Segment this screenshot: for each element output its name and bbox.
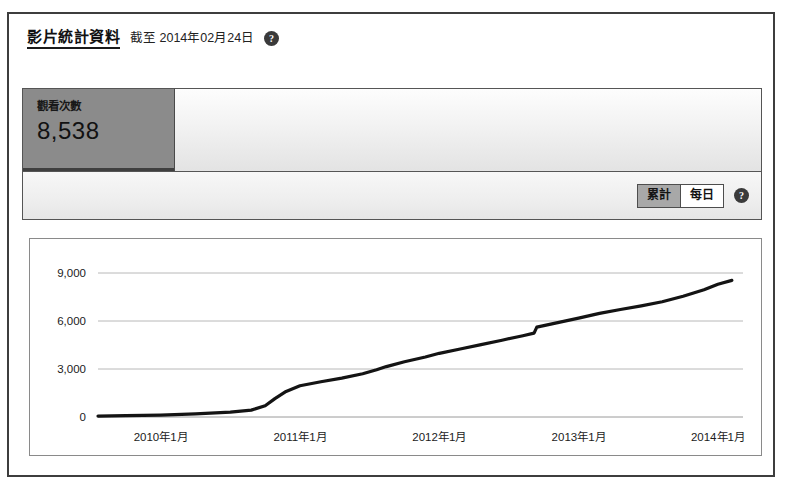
ytick-label-0: 0	[80, 411, 86, 423]
header: 影片統計資料 截至 2014年02月24日 ?	[27, 28, 279, 49]
xtick-label-2: 2012年1月	[412, 430, 466, 443]
help-icon[interactable]: ?	[264, 31, 279, 46]
view-count-card[interactable]: 觀看次數 8,538	[23, 89, 175, 171]
toggle-daily[interactable]: 每日	[680, 185, 723, 207]
view-count-label: 觀看次數	[37, 99, 174, 113]
as-of-date-label: 截至 2014年02月24日	[130, 29, 254, 49]
xtick-label-4: 2014年1月	[691, 430, 745, 443]
view-count-value: 8,538	[37, 116, 174, 146]
summary-chart-area	[175, 89, 761, 171]
summary-band: 觀看次數 8,538	[22, 88, 762, 172]
page-title: 影片統計資料	[27, 28, 120, 49]
xtick-label-0: 2010年1月	[134, 430, 188, 443]
toggle-cumulative[interactable]: 累計	[638, 185, 680, 207]
series-line-0	[98, 280, 732, 416]
ytick-label-9000: 9,000	[57, 267, 86, 279]
page-frame: 影片統計資料 截至 2014年02月24日 ? 觀看次數 8,538 累計 每日…	[7, 12, 775, 477]
chart-toolbar: 累計 每日 ?	[22, 172, 762, 220]
chart-panel: 03,0006,0009,0002010年1月2011年1月2012年1月201…	[29, 238, 762, 456]
range-toggle-group: 累計 每日	[637, 184, 724, 208]
xtick-label-1: 2011年1月	[273, 430, 326, 443]
ytick-label-3000: 3,000	[57, 363, 86, 375]
views-line-chart: 03,0006,0009,0002010年1月2011年1月2012年1月201…	[30, 239, 761, 455]
chart-help-icon[interactable]: ?	[734, 188, 749, 203]
xtick-label-3: 2013年1月	[552, 430, 606, 443]
ytick-label-6000: 6,000	[57, 315, 86, 327]
